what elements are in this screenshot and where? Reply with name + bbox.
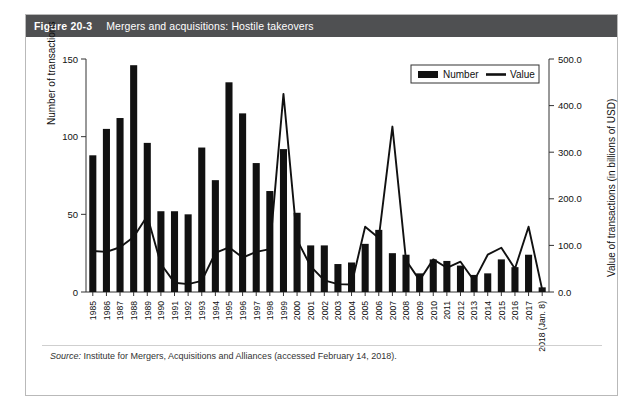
bar-1997 [253,163,260,292]
x-tick-label: 2001 [306,301,316,320]
y-tick-label-left: 0 [73,287,78,298]
x-tick-label: 1996 [238,301,248,320]
x-tick-label: 2010 [429,301,439,320]
x-tick-label: 2017 [524,301,534,320]
bar-2002 [321,245,328,292]
bar-2000 [294,213,301,292]
bar-1995 [225,82,232,292]
source-label: Source: [50,351,81,361]
x-tick-label: 2014 [483,301,493,320]
bar-1999 [280,149,287,292]
y-tick-label-left: 150 [62,54,78,65]
x-tick-label: 2002 [320,301,330,320]
y-tick-label-right: 0.0 [558,287,571,298]
x-tick-label: 2003 [333,301,343,320]
x-tick-label: 2015 [497,301,507,320]
x-tick-label: 2009 [415,301,425,320]
bar-1992 [185,214,192,292]
figure-number: Figure 20-3 [34,20,92,32]
y-tick-label-right: 300.0 [558,147,582,158]
x-tick-label: 1989 [143,301,153,320]
bar-2007 [389,253,396,292]
x-tick-label: 2008 [401,301,411,320]
y-tick-label-left: 50 [67,209,78,220]
x-tick-label: 2005 [360,301,370,320]
x-tick-label: 1999 [279,301,289,320]
x-tick-label: 1993 [197,301,207,320]
figure-title: Mergers and acquisitions: Hostile takeov… [106,20,313,32]
x-tick-label: 1985 [88,301,98,320]
bar-1994 [212,180,219,292]
footer-divider [42,345,602,346]
x-tick-label: 1992 [183,301,193,320]
x-tick-label: 1997 [252,301,262,320]
bar-1996 [239,113,246,292]
bar-1986 [103,129,110,292]
source-text: Institute for Mergers, Acquisitions and … [81,351,397,361]
bar-1993 [198,148,205,292]
x-tick-label: 2007 [388,301,398,320]
bar-1985 [89,155,96,292]
x-tick-label: 1986 [102,301,112,320]
figure-title-bar: Figure 20-3 Mergers and acquisitions: Ho… [26,15,617,37]
x-tick-label: 1995 [224,301,234,320]
x-tick-label: 2000 [292,301,302,320]
y-tick-label-right: 200.0 [558,193,582,204]
y-tick-label-right: 400.0 [558,100,582,111]
x-tick-label: 2006 [374,301,384,320]
chart-canvas: 0501001500.0100.0200.0300.0400.0500.0198… [26,37,619,367]
source-note: Source: Institute for Mergers, Acquisiti… [50,351,397,361]
bar-2016 [511,267,518,292]
bar-1990 [157,211,164,292]
x-tick-label: 1990 [156,301,166,320]
bar-2003 [334,264,341,292]
x-tick-label: 1991 [170,301,180,320]
bar-2014 [484,273,491,292]
legend-label-number: Number [443,69,479,80]
bar-2006 [375,230,382,292]
y-tick-label-right: 100.0 [558,240,582,251]
plot-area: Number of transactions Value of transact… [26,37,617,397]
bar-2012 [457,266,464,292]
x-tick-label: 1994 [211,301,221,320]
y-tick-label-left: 100 [62,131,78,142]
legend-label-value: Value [510,69,535,80]
x-tick-label: 2011 [442,301,452,320]
bar-2005 [362,244,369,292]
bar-1987 [117,118,124,292]
x-tick-label: 1998 [265,301,275,320]
x-tick-label: 2016 [510,301,520,320]
x-tick-label: 2012 [456,301,466,320]
y-tick-label-right: 500.0 [558,54,582,65]
x-tick-label: 2004 [347,301,357,320]
bar-1988 [130,65,137,292]
value-line-series [93,94,542,290]
legend-swatch-number [418,71,438,78]
x-tick-label: 1987 [115,301,125,320]
x-tick-label: 2013 [469,301,479,320]
bar-2015 [498,259,505,292]
figure-card: Figure 20-3 Mergers and acquisitions: Ho… [25,14,618,396]
bar-2017 [525,255,532,292]
x-tick-label: 1988 [129,301,139,320]
